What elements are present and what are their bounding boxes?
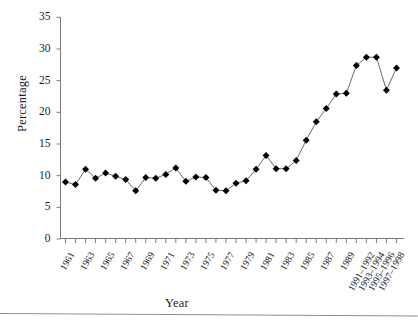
- data-point-marker: 1993–1994: 28.7: [373, 54, 380, 61]
- data-point-marker: 1970: 9.6: [152, 175, 159, 182]
- x-axis-title-text: Year: [165, 296, 189, 310]
- data-point-marker: 1995–1996: 23.5: [383, 87, 390, 94]
- x-axis-title: Year: [0, 296, 418, 311]
- axis-lines: [61, 17, 405, 239]
- chart-figure: 1961: 91962: 8.61963: 111964: 9.61965: 1…: [0, 0, 418, 322]
- data-point-marker: 1961: 9: [62, 178, 69, 185]
- y-axis-ticks: [57, 17, 61, 239]
- y-tick-label: 30: [23, 43, 51, 55]
- data-point-marker: 1985: 15.6: [303, 137, 310, 144]
- data-point-marker: 1971: 10.2: [162, 171, 169, 178]
- data-point-marker: 1988: 22.9: [333, 90, 340, 97]
- data-point-marker: 1989: 23: [343, 90, 350, 97]
- y-tick-label: 10: [23, 170, 51, 182]
- series-markers: 1961: 91962: 8.61963: 111964: 9.61965: 1…: [62, 54, 400, 195]
- y-axis-title: Percentage: [15, 56, 30, 152]
- y-tick-label: 35: [23, 11, 51, 23]
- data-point-marker: 1997–1998: 27: [393, 64, 400, 71]
- y-tick-label: 5: [23, 201, 51, 213]
- series-line: [66, 57, 397, 191]
- data-point-marker: 1974: 9.8: [192, 173, 199, 180]
- y-tick-label: 0: [23, 233, 51, 245]
- data-point-marker: 1962: 8.6: [72, 181, 79, 188]
- x-axis-ticks: [66, 239, 397, 243]
- data-point-marker: 1965: 10.4: [102, 170, 109, 177]
- data-point-marker: 1966: 9.9: [112, 173, 119, 180]
